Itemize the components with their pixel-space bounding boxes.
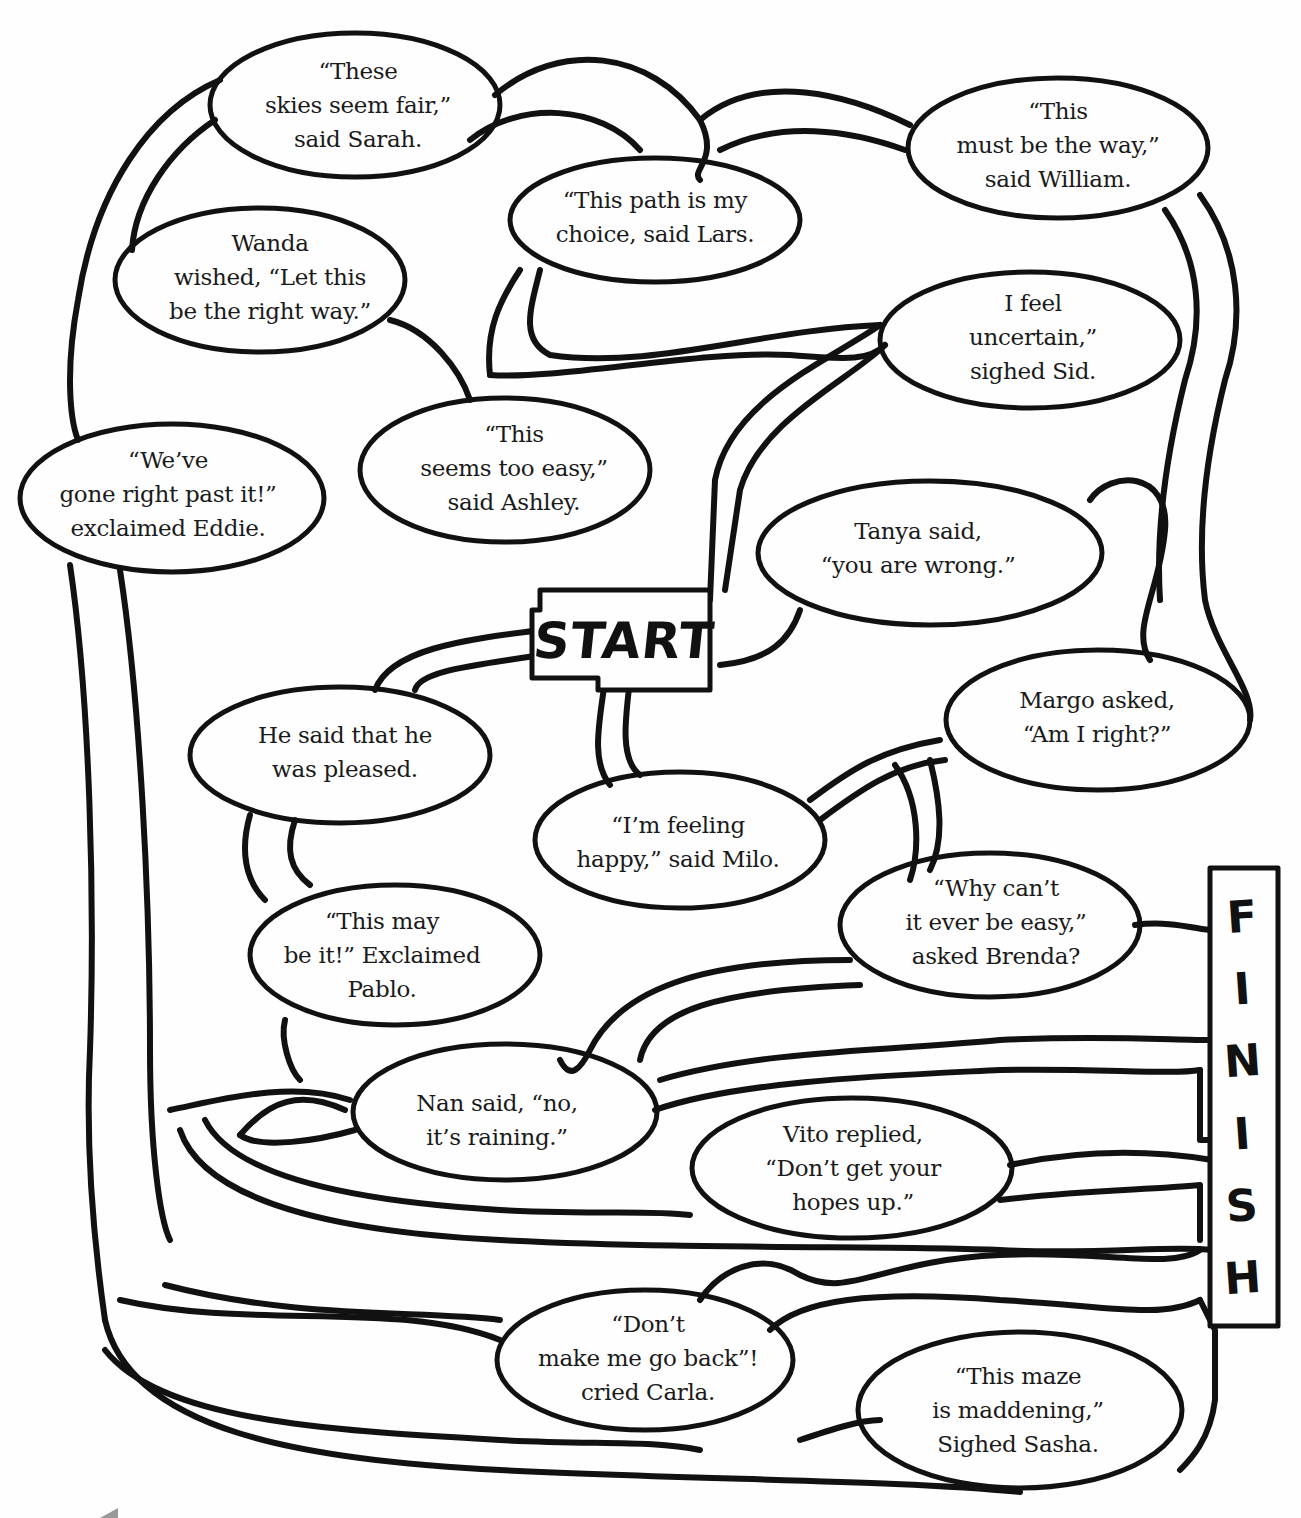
bubble-eddie[interactable]: “We’ve gone right past it!” exclaimed Ed… — [59, 443, 276, 545]
bubble-line: “This path is my — [556, 183, 755, 217]
bubble-line: be it!” Exclaimed — [284, 938, 481, 972]
bubble-line: Vito replied, — [765, 1117, 941, 1151]
bubble-line: Tanya said, — [821, 514, 1016, 548]
bubble-sasha[interactable]: “This maze is maddening,” Sighed Sasha. — [932, 1359, 1104, 1461]
bubble-carla[interactable]: “Don’t make me go back”! cried Carla. — [538, 1307, 758, 1409]
bubble-line: “you are wrong.” — [821, 548, 1016, 582]
bubble-line: was pleased. — [258, 752, 432, 786]
finish-letter: S — [1224, 1179, 1259, 1232]
bubble-sarah[interactable]: “These skies seem fair,” said Sarah. — [265, 54, 451, 156]
quotation-maze-worksheet: START F I N I S H “These skies seem fair… — [0, 0, 1301, 1518]
bubble-line: skies seem fair,” — [265, 88, 451, 122]
bubble-line: exclaimed Eddie. — [59, 511, 276, 545]
bubble-line: He said that he — [258, 718, 432, 752]
bubble-line: said Ashley. — [420, 485, 608, 519]
finish-letter: H — [1222, 1251, 1262, 1304]
finish-label: F I N I S H — [1212, 872, 1272, 1322]
bubble-line: “Why can’t — [905, 871, 1086, 905]
bubble-line: “This — [420, 417, 608, 451]
bubble-line: wished, “Let this — [169, 260, 371, 294]
bubble-he[interactable]: He said that he was pleased. — [258, 718, 432, 786]
bubble-line: asked Brenda? — [905, 939, 1086, 973]
bubble-line: sighed Sid. — [969, 354, 1097, 388]
bubble-line: “Don’t — [538, 1307, 758, 1341]
bubble-line: “We’ve — [59, 443, 276, 477]
bubble-line: Sighed Sasha. — [932, 1427, 1104, 1461]
bubble-lars[interactable]: “This path is my choice, said Lars. — [556, 183, 755, 251]
bubble-line: hopes up.” — [765, 1185, 941, 1219]
bubble-line: cried Carla. — [538, 1375, 758, 1409]
bubble-pablo[interactable]: “This may be it!” Exclaimed Pablo. — [284, 904, 481, 1006]
bubble-brenda[interactable]: “Why can’t it ever be easy,” asked Brend… — [905, 871, 1086, 973]
finish-letter: I — [1232, 1107, 1252, 1159]
bubble-line: “This may — [284, 904, 481, 938]
bubble-sid[interactable]: I feel uncertain,” sighed Sid. — [969, 286, 1097, 388]
bubble-line: happy,” said Milo. — [577, 842, 780, 876]
bubble-line: it’s raining.” — [416, 1120, 578, 1154]
bubble-line: is maddening,” — [932, 1393, 1104, 1427]
bubble-wanda[interactable]: Wanda wished, “Let this be the right way… — [169, 226, 371, 328]
bubble-line: seems too easy,” — [420, 451, 608, 485]
bubble-line: gone right past it!” — [59, 477, 276, 511]
bubble-line: said Sarah. — [265, 122, 451, 156]
bubble-vito[interactable]: Vito replied, “Don’t get your hopes up.” — [765, 1117, 941, 1219]
bubble-line: “These — [265, 54, 451, 88]
start-label: START — [537, 606, 710, 676]
bubble-line: be the right way.” — [169, 294, 371, 328]
bubble-line: it ever be easy,” — [905, 905, 1086, 939]
bubble-line: Pablo. — [284, 972, 481, 1006]
bubble-william[interactable]: “This must be the way,” said William. — [957, 94, 1160, 196]
bubble-line: said William. — [957, 162, 1160, 196]
bubble-line: Margo asked, — [1019, 683, 1175, 717]
bubble-ashley[interactable]: “This seems too easy,” said Ashley. — [420, 417, 608, 519]
bubble-line: “Don’t get your — [765, 1151, 941, 1185]
bubble-milo[interactable]: “I’m feeling happy,” said Milo. — [577, 808, 780, 876]
bubble-line: “This — [957, 94, 1160, 128]
finish-letter: N — [1222, 1034, 1262, 1087]
bubble-line: uncertain,” — [969, 320, 1097, 354]
bubble-line: must be the way,” — [957, 128, 1160, 162]
bubble-line: make me go back”! — [538, 1341, 758, 1375]
finish-letter: I — [1232, 962, 1252, 1014]
page-curl-mark — [100, 1508, 118, 1518]
bubble-line: choice, said Lars. — [556, 217, 755, 251]
bubble-line: “Am I right?” — [1019, 717, 1175, 751]
bubble-line: “I’m feeling — [577, 808, 780, 842]
bubble-tanya[interactable]: Tanya said, “you are wrong.” — [821, 514, 1016, 582]
bubble-line: Wanda — [169, 226, 371, 260]
bubble-line: Nan said, “no, — [416, 1086, 578, 1120]
bubble-margo[interactable]: Margo asked, “Am I right?” — [1019, 683, 1175, 751]
bubble-line: “This maze — [932, 1359, 1104, 1393]
bubble-line: I feel — [969, 286, 1097, 320]
bubble-nan[interactable]: Nan said, “no, it’s raining.” — [416, 1086, 578, 1154]
finish-letter: F — [1225, 890, 1259, 943]
